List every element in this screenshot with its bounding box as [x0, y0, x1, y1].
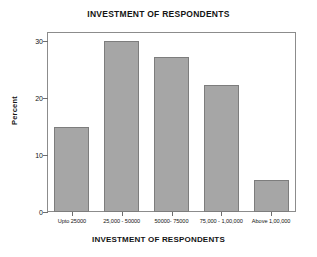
y-axis-tick-label: 10: [21, 151, 43, 158]
y-axis-tick-label: 20: [21, 94, 43, 101]
y-axis-tick-labels: 0102030: [18, 32, 43, 212]
y-axis-tick-mark: [43, 98, 48, 99]
chart-title: INVESTMENT OF RESPONDENTS: [0, 9, 317, 19]
y-axis-tick-label: 30: [21, 37, 43, 44]
x-axis-tick-label: 50000- 75000: [155, 218, 189, 224]
x-axis-tick-label: 25,000 - 50000: [103, 218, 140, 224]
x-axis-title: INVESTMENT OF RESPONDENTS: [0, 235, 317, 244]
y-axis-tick-mark: [43, 212, 48, 213]
bar-chart: INVESTMENT OF RESPONDENTS Percent 010203…: [0, 0, 317, 257]
x-axis-tick-mark: [221, 212, 222, 216]
x-axis-tick-mark: [122, 212, 123, 216]
bar: [104, 41, 139, 212]
y-axis-tick-mark: [43, 41, 48, 42]
y-axis-tick-mark: [43, 155, 48, 156]
x-axis-tick-label: 75,000 - 1,00,000: [200, 218, 243, 224]
bar: [204, 85, 239, 212]
x-axis-tick-mark: [271, 212, 272, 216]
bar: [54, 127, 89, 212]
x-axis-tick-mark: [172, 212, 173, 216]
bar: [254, 180, 289, 212]
x-axis-tick-label: Upto 25000: [58, 218, 86, 224]
x-axis-tick-mark: [72, 212, 73, 216]
y-axis-tick-label: 0: [21, 209, 43, 216]
bar: [154, 57, 189, 212]
x-axis-tick-label: Above 1,00,000: [252, 218, 291, 224]
